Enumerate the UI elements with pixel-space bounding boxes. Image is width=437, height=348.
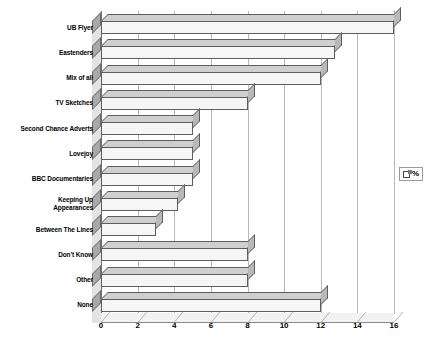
x-tick-label: 16 — [390, 321, 399, 330]
bar-top-face — [101, 140, 200, 147]
category-label: Other — [0, 276, 93, 284]
x-tick-label: 0 — [99, 321, 103, 330]
bar-front-face — [101, 46, 335, 59]
legend-label: % — [412, 170, 419, 178]
bar[interactable] — [101, 72, 321, 85]
bar-row — [101, 173, 394, 186]
bar-side-face — [193, 133, 200, 153]
bar-side-face — [321, 285, 328, 305]
bar-top-face — [101, 292, 328, 299]
bar-front-face — [101, 299, 321, 312]
bar-top-face — [101, 65, 328, 72]
bar-side-face — [193, 108, 200, 128]
bar-chart: UB FlyerEastendersMix of allTV SketchesS… — [0, 0, 437, 348]
bar-row — [101, 147, 394, 160]
legend-swatch-icon — [403, 171, 410, 178]
bar-row — [101, 198, 394, 211]
bar[interactable] — [101, 147, 193, 160]
bar-top-face — [101, 267, 255, 274]
bar-row — [101, 122, 394, 135]
bar-row — [101, 21, 394, 34]
bar-front-face — [101, 173, 193, 186]
bar-row — [101, 248, 394, 261]
bar-front-face — [101, 274, 248, 287]
bar-row — [101, 274, 394, 287]
category-label: TV Sketches — [0, 99, 93, 107]
category-label: Between The Lines — [0, 226, 93, 234]
category-label: Lovejoy — [0, 150, 93, 158]
category-label: Eastenders — [0, 49, 93, 57]
value-axis-labels: 0246810121416 — [101, 321, 401, 335]
x-tick-label: 8 — [245, 321, 249, 330]
bar-top-face — [101, 191, 185, 198]
category-label: BBC Documentaries — [0, 175, 93, 183]
bar-top-face — [101, 216, 163, 223]
bar-row — [101, 223, 394, 236]
x-tick-label: 4 — [172, 321, 176, 330]
bar[interactable] — [101, 299, 321, 312]
gridline-16 — [394, 11, 395, 314]
bar-front-face — [101, 223, 156, 236]
x-tick-label: 2 — [135, 321, 139, 330]
bar-rows — [101, 11, 394, 314]
bar[interactable] — [101, 97, 248, 110]
bar[interactable] — [101, 122, 193, 135]
x-tick-label: 6 — [209, 321, 213, 330]
category-label: None — [0, 301, 93, 309]
bar[interactable] — [101, 248, 248, 261]
bar-row — [101, 72, 394, 85]
bar-front-face — [101, 21, 394, 34]
bar-side-face — [248, 83, 255, 103]
bar-side-face — [248, 234, 255, 254]
bar-top-face — [101, 166, 200, 173]
bar[interactable] — [101, 46, 335, 59]
bar-side-face — [335, 32, 342, 52]
bar[interactable] — [101, 198, 178, 211]
bar-top-face — [101, 115, 200, 122]
category-label: Keeping UpAppearances — [0, 196, 93, 212]
bar-front-face — [101, 72, 321, 85]
bar-side-face — [156, 209, 163, 229]
category-label: Second Chance Adverts — [0, 125, 93, 133]
category-axis-labels: UB FlyerEastendersMix of allTV SketchesS… — [0, 11, 97, 314]
bar-front-face — [101, 147, 193, 160]
bar-front-face — [101, 122, 193, 135]
bar-side-face — [193, 159, 200, 179]
bar-row — [101, 97, 394, 110]
x-tick-label: 10 — [280, 321, 289, 330]
category-label: Mix of all — [0, 74, 93, 82]
bar[interactable] — [101, 21, 394, 34]
bar-front-face — [101, 97, 248, 110]
bar-front-face — [101, 198, 178, 211]
bar-side-face — [248, 260, 255, 280]
category-label: UB Flyer — [0, 24, 93, 32]
bar-front-face — [101, 248, 248, 261]
bar-side-face — [178, 184, 185, 204]
bar[interactable] — [101, 274, 248, 287]
category-label: Don't Know — [0, 251, 93, 259]
bar-side-face — [394, 7, 401, 27]
bar-top-face — [101, 90, 255, 97]
bar-top-face — [101, 14, 401, 21]
x-tick-label: 12 — [316, 321, 325, 330]
bar[interactable] — [101, 223, 156, 236]
bar-row — [101, 46, 394, 59]
bar-row — [101, 299, 394, 312]
bar-side-face — [321, 58, 328, 78]
chart-legend: % — [399, 167, 423, 181]
bar-top-face — [101, 39, 342, 46]
plot-area — [101, 11, 394, 314]
bar-top-face — [101, 241, 255, 248]
bar[interactable] — [101, 173, 193, 186]
x-tick-label: 14 — [353, 321, 362, 330]
